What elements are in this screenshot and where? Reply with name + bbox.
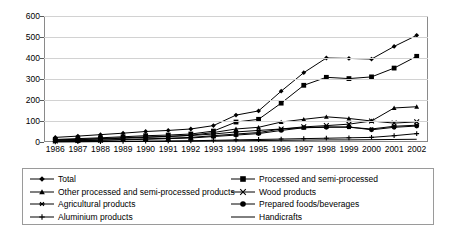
x-tick-label: 1986: [46, 145, 65, 154]
legend-marker-square-icon: [230, 173, 256, 185]
y-axis: 0100200300400500600: [0, 16, 40, 142]
data-point-square: [279, 101, 284, 106]
data-point-plus: [256, 137, 261, 142]
legend-column-right: Processed and semi-processedWood product…: [230, 173, 378, 223]
data-point-circle: [279, 128, 284, 133]
data-point-diamond: [166, 128, 171, 133]
data-point-plus: [234, 138, 239, 143]
legend-marker-circle-icon: [230, 198, 256, 210]
gridline: [44, 121, 428, 122]
y-tick-label: 200: [26, 96, 40, 105]
data-point-plus: [392, 133, 397, 138]
x-tick-label: 1996: [272, 145, 291, 154]
legend-label: Handicrafts: [256, 213, 302, 222]
data-point-square: [240, 176, 246, 182]
data-point-plus: [369, 135, 374, 140]
data-point-plus: [414, 131, 419, 136]
legend-label: Total: [55, 175, 76, 184]
legend-marker-triangle-icon: [29, 186, 55, 198]
legend-item: Prepared foods/beverages: [230, 198, 378, 211]
legend-item: Handicrafts: [230, 211, 378, 224]
x-tick-label: 1991: [159, 145, 178, 154]
data-point-circle: [369, 127, 374, 132]
y-tick-label: 300: [26, 75, 40, 84]
legend-item: Total: [29, 173, 235, 186]
x-tick-label: 1999: [339, 145, 358, 154]
legend-marker-plus-icon: [29, 211, 55, 223]
x-tick-label: 1993: [204, 145, 223, 154]
legend-item: Agricultural products: [29, 198, 235, 211]
data-point-circle: [256, 131, 261, 136]
data-point-circle: [324, 125, 329, 130]
legend-marker-none-icon: [230, 211, 256, 223]
x-tick-label: 1997: [294, 145, 313, 154]
x-axis: 1986198719881989199019911992199319941995…: [44, 143, 428, 159]
legend-label: Wood products: [256, 188, 316, 197]
x-tick-label: 1987: [68, 145, 87, 154]
plot-area: [44, 16, 428, 142]
legend-item: Wood products: [230, 186, 378, 199]
legend-label: Other processed and semi-processed produ…: [55, 188, 235, 197]
x-tick-label: 1988: [91, 145, 110, 154]
x-tick-label: 1990: [136, 145, 155, 154]
data-point-circle: [301, 125, 306, 130]
y-tick-label: 100: [26, 117, 40, 126]
y-tick-label: 600: [26, 12, 40, 21]
y-tick-label: 400: [26, 54, 40, 63]
x-tick-label: 2002: [407, 145, 426, 154]
line-chart: 0100200300400500600 19861987198819891990…: [0, 0, 450, 231]
data-point-circle: [234, 133, 239, 138]
x-tick-label: 1992: [181, 145, 200, 154]
x-tick-label: 1994: [227, 145, 246, 154]
gridline: [44, 16, 428, 17]
data-point-asterisk: [39, 202, 45, 206]
gridline: [44, 58, 428, 59]
data-point-diamond: [143, 129, 148, 134]
chart-legend: TotalOther processed and semi-processed …: [22, 168, 434, 225]
legend-column-left: TotalOther processed and semi-processed …: [29, 173, 235, 223]
x-tick-label: 1989: [114, 145, 133, 154]
data-point-circle: [414, 124, 419, 129]
data-point-square: [392, 66, 397, 71]
data-point-diamond: [392, 44, 397, 49]
legend-label: Agricultural products: [55, 200, 135, 209]
data-point-plus: [39, 214, 45, 220]
legend-item: Aluminium products: [29, 211, 235, 224]
data-point-circle: [240, 201, 246, 207]
legend-item: Other processed and semi-processed produ…: [29, 186, 235, 199]
data-point-circle: [347, 124, 352, 129]
legend-marker-asterisk-icon: [29, 198, 55, 210]
legend-label: Processed and semi-processed: [256, 175, 378, 184]
gridline: [44, 37, 428, 38]
data-point-diamond: [188, 127, 193, 132]
x-tick-label: 2001: [385, 145, 404, 154]
legend-marker-diamond-icon: [29, 173, 55, 185]
gridline: [44, 79, 428, 80]
gridline: [44, 100, 428, 101]
data-point-diamond: [39, 176, 45, 182]
data-point-circle: [392, 125, 397, 130]
legend-marker-x-icon: [230, 186, 256, 198]
legend-label: Aluminium products: [55, 213, 133, 222]
data-point-square: [301, 83, 306, 88]
data-point-diamond: [234, 113, 239, 118]
legend-item: Processed and semi-processed: [230, 173, 378, 186]
y-tick-label: 500: [26, 33, 40, 42]
data-point-plus: [211, 138, 216, 143]
legend-label: Prepared foods/beverages: [256, 200, 359, 209]
x-tick-label: 1995: [249, 145, 268, 154]
x-tick-label: 2000: [362, 145, 381, 154]
x-tick-label: 1998: [317, 145, 336, 154]
data-point-diamond: [211, 123, 216, 128]
